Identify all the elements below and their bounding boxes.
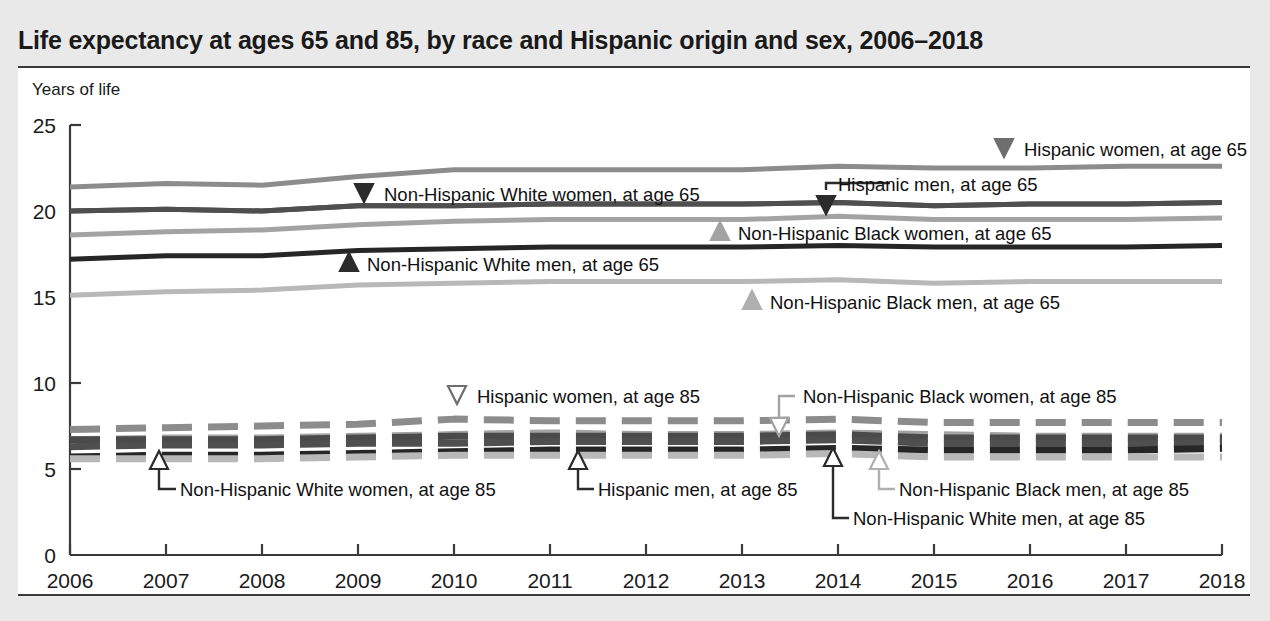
x-tick-label: 2010 [431,569,478,592]
y-tick-label: 5 [44,458,56,481]
line-chart: 0510152025200620072008200920102011201220… [0,0,1270,621]
x-tick-label: 2006 [47,569,94,592]
annotation-hispanic-women-65: Hispanic women, at age 65 [1024,139,1247,160]
annotation-nh-white-men-65: Non-Hispanic White men, at age 65 [367,254,659,275]
annotation-hispanic-men-85: Hispanic men, at age 85 [598,479,798,500]
marker-up-triangle-icon [340,253,358,271]
annotation-nh-white-women-65: Non-Hispanic White women, at age 65 [384,184,700,205]
marker-down-triangle-icon [448,386,466,404]
leader-line [833,467,849,518]
x-tick-label: 2018 [1199,569,1246,592]
marker-down-triangle-icon [995,139,1013,157]
annotation-hispanic-women-85: Hispanic women, at age 85 [477,386,700,407]
series-line [70,454,1222,459]
leader-line [159,470,176,489]
annotation-nh-white-men-85: Non-Hispanic White men, at age 85 [853,508,1145,529]
x-tick-label: 2008 [239,569,286,592]
marker-down-triangle-icon [355,184,373,202]
y-tick-label: 10 [33,372,56,395]
x-tick-label: 2015 [911,569,958,592]
x-tick-label: 2013 [719,569,766,592]
chart-annotations: Hispanic women, at age 65Non-Hispanic Wh… [150,139,1247,529]
marker-up-triangle-icon [743,291,761,309]
marker-up-triangle-icon [711,222,729,240]
x-tick-label: 2007 [143,569,190,592]
x-tick-label: 2017 [1103,569,1150,592]
y-tick-label: 25 [33,114,56,137]
annotation-nh-black-women-65: Non-Hispanic Black women, at age 65 [738,223,1052,244]
annotation-nh-black-men-65: Non-Hispanic Black men, at age 65 [770,292,1060,313]
series-line [70,419,1222,429]
x-tick-label: 2016 [1007,569,1054,592]
annotation-nh-white-women-85: Non-Hispanic White women, at age 85 [180,479,496,500]
x-tick-label: 2012 [623,569,670,592]
x-tick-label: 2009 [335,569,382,592]
leader-line [578,470,594,489]
series-line [70,440,1222,447]
x-tick-label: 2011 [527,569,572,592]
annotation-nh-black-men-85: Non-Hispanic Black men, at age 85 [899,479,1189,500]
leader-line [779,396,795,417]
annotation-nh-black-women-85: Non-Hispanic Black women, at age 85 [803,386,1117,407]
leader-line [879,470,895,489]
y-tick-label: 0 [44,544,56,567]
y-tick-label: 20 [33,200,56,223]
annotation-hispanic-men-65: Hispanic men, at age 65 [838,174,1038,195]
figure-container: Life expectancy at ages 65 and 85, by ra… [0,0,1270,621]
x-tick-label: 2014 [815,569,862,592]
y-tick-label: 15 [33,286,56,309]
